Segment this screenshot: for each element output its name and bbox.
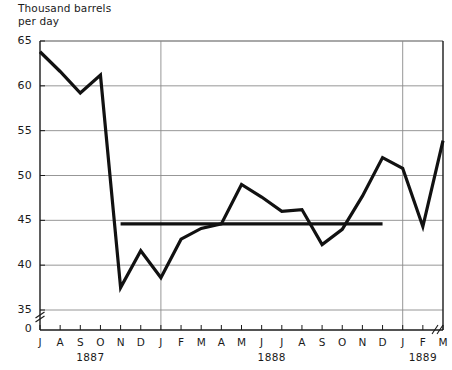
x-tick-label: J bbox=[32, 336, 48, 348]
x-tick-label: A bbox=[213, 336, 229, 348]
x-tick-label: A bbox=[52, 336, 68, 348]
x-tick-label: F bbox=[173, 336, 189, 348]
y-tick-label: 60 bbox=[4, 79, 32, 92]
x-tick-label: N bbox=[354, 336, 370, 348]
y-tick-label: 55 bbox=[4, 124, 32, 137]
x-tick-label: O bbox=[334, 336, 350, 348]
x-tick-label: O bbox=[92, 336, 108, 348]
y-tick-label-zero: 0 bbox=[4, 322, 32, 335]
y-tick-label: 40 bbox=[4, 258, 32, 271]
year-group-label: 1887 bbox=[60, 351, 120, 363]
year-group-label: 1889 bbox=[393, 351, 452, 363]
x-tick-label: A bbox=[294, 336, 310, 348]
x-tick-label: J bbox=[254, 336, 270, 348]
x-tick-label: M bbox=[193, 336, 209, 348]
x-tick-label: N bbox=[113, 336, 129, 348]
y-tick-label: 35 bbox=[4, 303, 32, 316]
y-tick-label: 65 bbox=[4, 34, 32, 47]
x-tick-label: D bbox=[375, 336, 391, 348]
x-tick-label: S bbox=[314, 336, 330, 348]
x-tick-label: F bbox=[415, 336, 431, 348]
data-line-production bbox=[40, 52, 443, 288]
y-tick-label: 50 bbox=[4, 169, 32, 182]
y-tick-label: 45 bbox=[4, 213, 32, 226]
line-chart-canvas bbox=[0, 0, 452, 370]
x-tick-label: M bbox=[435, 336, 451, 348]
x-tick-label: D bbox=[133, 336, 149, 348]
x-tick-label: J bbox=[274, 336, 290, 348]
x-tick-label: M bbox=[234, 336, 250, 348]
year-group-label: 1888 bbox=[242, 351, 302, 363]
chart-root: Thousand barrels per day 354045505560650… bbox=[0, 0, 452, 370]
x-tick-label: S bbox=[72, 336, 88, 348]
x-tick-label: J bbox=[395, 336, 411, 348]
x-tick-label: J bbox=[153, 336, 169, 348]
